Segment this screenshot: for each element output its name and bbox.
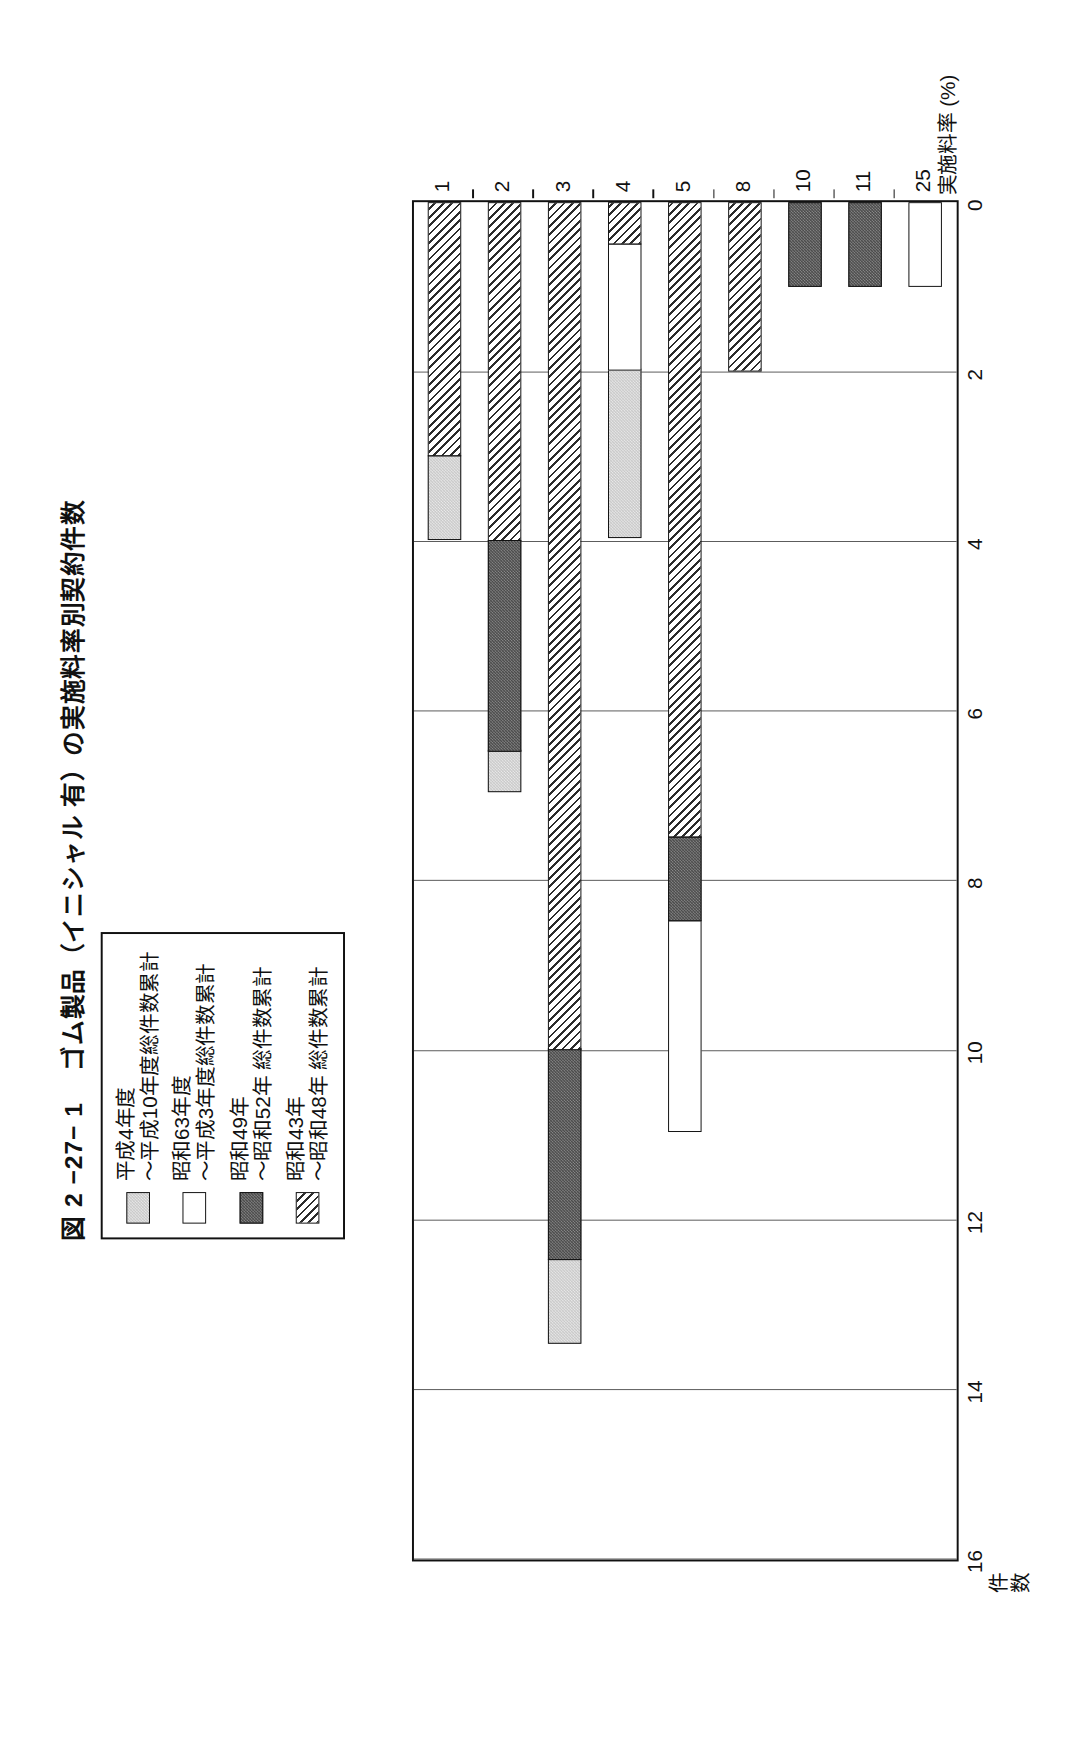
bar-segment (548, 1048, 581, 1260)
legend-item: 平成4年度〜平成10年度総件数累計 (115, 951, 163, 1223)
bar-segment (427, 455, 460, 540)
bar-group-2 (487, 202, 520, 791)
category-axis-tick: 5 (671, 180, 695, 192)
figure-stage: 図 2 −27− 1 ゴム製品（イニシャル 有）の実施料率別契約件数 平成4年度… (40, 62, 1045, 1677)
legend-item-label: 平成4年度〜平成10年度総件数累計 (115, 951, 163, 1181)
bar-segment (608, 368, 641, 538)
legend-item-label: 昭和43年〜昭和48年 総件数累計 (284, 966, 332, 1181)
bar-segment (608, 202, 641, 244)
category-axis-title: 実施料率 (%) (931, 74, 961, 195)
chart-legend: 平成4年度〜平成10年度総件数累計昭和63年度〜平成3年度総件数累計昭和49年〜… (101, 931, 345, 1239)
legend-item-label: 昭和49年〜昭和52年 総件数累計 (227, 966, 275, 1181)
category-axis-tick: 2 (490, 180, 514, 192)
value-axis-title-line1: 件 (988, 1474, 1010, 1592)
bar-segment (668, 919, 701, 1131)
category-axis-tickmark (653, 189, 655, 198)
figure-number: 図 2 −27− 1 (59, 1102, 87, 1241)
category-axis-tick: 4 (611, 180, 635, 192)
bar-segment (728, 202, 761, 372)
legend-swatch-white (183, 1192, 207, 1224)
legend-item-label-line2: 〜昭和48年 総件数累計 (308, 966, 332, 1181)
category-axis-tickmark (593, 189, 595, 198)
category-axis-tickmark (833, 189, 835, 198)
bar-group-3 (548, 202, 581, 1342)
bar-segment (608, 243, 641, 370)
value-axis-tick: 16 (964, 1549, 988, 1572)
bar-segment (849, 202, 882, 287)
legend-item-label-line1: 昭和49年 (227, 1096, 250, 1181)
category-axis-tick: 1 (430, 180, 454, 192)
value-axis-title: 件 数 (988, 1474, 1031, 1592)
legend-item-label-line1: 昭和43年 (284, 1096, 307, 1181)
category-axis-tick: 3 (551, 180, 575, 192)
bar-group-8 (728, 202, 761, 370)
bar-group-1 (427, 202, 460, 538)
legend-item: 昭和49年〜昭和52年 総件数累計 (227, 951, 275, 1223)
value-axis-tick: 8 (964, 877, 988, 889)
value-axis-tick: 2 (964, 368, 988, 380)
category-axis-tick: 11 (852, 170, 876, 191)
legend-swatch-dark-dotted (239, 1192, 263, 1224)
legend-item-label: 昭和63年度〜平成3年度総件数累計 (171, 962, 219, 1180)
category-axis-tickmark (713, 189, 715, 198)
page-title: ゴム製品（イニシャル 有）の実施料率別契約件数 (59, 499, 87, 1070)
legend-item-label-line2: 〜平成10年度総件数累計 (138, 951, 162, 1181)
value-axis: 1614121086420 (964, 200, 1003, 1561)
bar-segment (487, 202, 520, 541)
legend-item-label-line1: 昭和63年度 (171, 1075, 194, 1181)
legend-item-label-line1: 平成4年度 (115, 1087, 138, 1181)
value-axis-tick: 6 (964, 707, 988, 719)
category-axis-tickmark (773, 189, 775, 198)
value-axis-tick: 14 (964, 1380, 988, 1403)
legend-swatch-light-gray-dotted (126, 1192, 150, 1224)
bar-group-11 (849, 202, 882, 285)
bar-segment (487, 750, 520, 792)
legend-item: 昭和43年〜昭和48年 総件数累計 (284, 951, 332, 1223)
bar-segment (668, 202, 701, 838)
plot-area (412, 200, 959, 1561)
category-axis-tickmark (532, 189, 534, 198)
bar-segment (548, 1258, 581, 1343)
value-axis-tick: 10 (964, 1041, 988, 1064)
bar-group-25 (909, 202, 942, 285)
bar-group-5 (668, 202, 701, 1130)
figure-title-line: 図 2 −27− 1 ゴム製品（イニシャル 有）の実施料率別契約件数 (53, 62, 88, 1677)
bar-segment (487, 539, 520, 751)
legend-item-label-line2: 〜昭和52年 総件数累計 (251, 966, 275, 1181)
bar-group-10 (788, 202, 821, 285)
bars-layer (414, 202, 957, 1559)
bar-segment (788, 202, 821, 287)
bar-segment (909, 202, 942, 287)
bar-segment (668, 836, 701, 921)
category-axis-tick: 10 (791, 169, 815, 192)
legend-swatch-diagonal-hatch (296, 1192, 320, 1224)
category-axis-tickmark (894, 189, 896, 198)
value-axis-tick: 0 (964, 199, 988, 211)
bar-group-4 (608, 202, 641, 537)
category-axis-tick: 8 (731, 180, 755, 192)
legend-item: 昭和63年度〜平成3年度総件数累計 (171, 951, 219, 1223)
value-axis-tick: 4 (964, 538, 988, 550)
category-axis: 123458101125 (412, 80, 959, 198)
value-axis-tick: 12 (964, 1210, 988, 1233)
bar-segment (548, 202, 581, 1050)
category-axis-tickmark (472, 189, 474, 198)
bar-segment (427, 202, 460, 456)
legend-item-label-line2: 〜平成3年度総件数累計 (195, 962, 219, 1180)
value-axis-title-line2: 数 (1010, 1474, 1032, 1592)
